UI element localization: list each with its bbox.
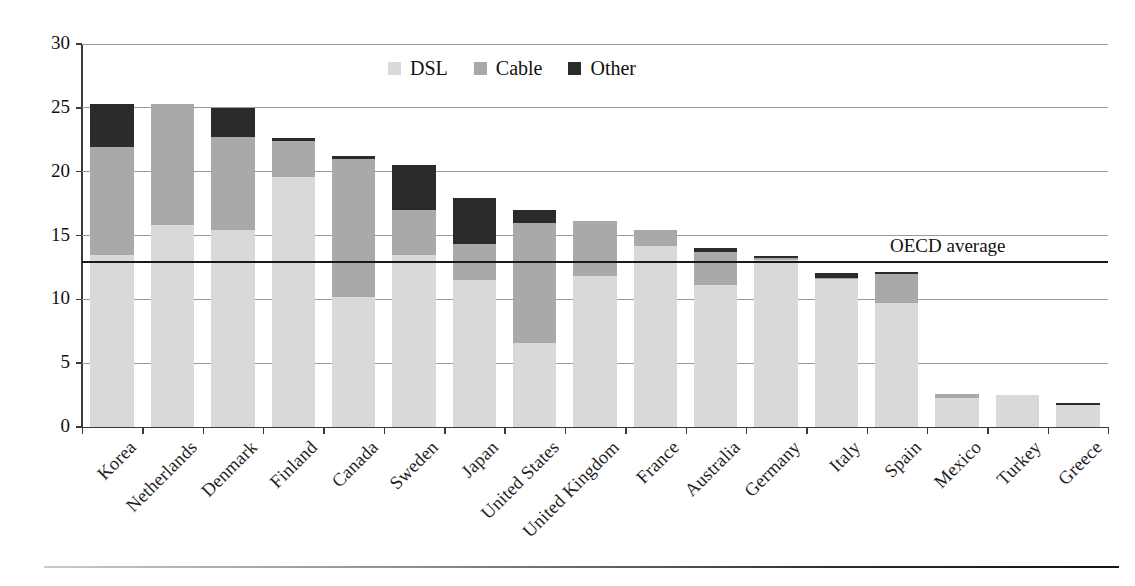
bar-segment-other	[211, 108, 254, 137]
legend-label-cable: Cable	[496, 57, 543, 80]
legend-swatch-other	[568, 62, 581, 75]
x-label-turkey: Turkey	[993, 437, 1046, 490]
x-label-australia: Australia	[680, 437, 744, 501]
y-tick-label-5: 5	[24, 352, 70, 371]
x-tick-mark-13	[867, 427, 868, 434]
bar-sweden	[392, 165, 435, 427]
x-tick-mark-17	[1108, 427, 1109, 434]
bar-australia	[694, 248, 737, 427]
bar-segment-dsl	[513, 343, 556, 427]
bar-segment-dsl	[634, 246, 677, 427]
x-tick-mark-12	[806, 427, 807, 434]
bar-segment-dsl	[754, 260, 797, 427]
bar-segment-dsl	[453, 280, 496, 427]
bar-segment-dsl	[935, 398, 978, 427]
y-tick-label-30: 30	[24, 33, 70, 52]
bar-segment-cable	[634, 230, 677, 245]
bar-finland	[272, 138, 315, 427]
bar-united-kingdom	[573, 221, 616, 427]
bar-segment-dsl	[815, 279, 858, 427]
y-tick-label-20: 20	[24, 161, 70, 180]
x-tick-mark-0	[82, 427, 83, 434]
x-tick-mark-1	[142, 427, 143, 434]
bar-turkey	[996, 395, 1039, 427]
legend-label-other: Other	[590, 57, 636, 80]
bar-segment-other	[754, 256, 797, 259]
legend-label-dsl: DSL	[410, 57, 448, 80]
bar-segment-other	[1056, 403, 1099, 406]
bar-segment-dsl	[90, 255, 133, 427]
bar-segment-cable	[392, 210, 435, 255]
bar-segment-other	[815, 273, 858, 278]
x-label-denmark: Denmark	[197, 437, 262, 502]
bar-japan	[453, 198, 496, 427]
bar-segment-cable	[754, 258, 797, 260]
bar-segment-cable	[815, 277, 858, 279]
bar-germany	[754, 256, 797, 427]
x-label-france: France	[633, 437, 684, 488]
bar-segment-other	[272, 138, 315, 141]
x-label-mexico: Mexico	[930, 437, 986, 493]
bar-segment-dsl	[573, 276, 616, 427]
legend-item-dsl: DSL	[388, 57, 448, 80]
bar-segment-other	[90, 104, 133, 147]
y-tick-label-0: 0	[24, 416, 70, 435]
y-tick-label-15: 15	[24, 225, 70, 244]
x-tick-mark-2	[203, 427, 204, 434]
bar-segment-cable	[935, 394, 978, 398]
x-label-canada: Canada	[327, 437, 382, 492]
x-label-italy: Italy	[826, 437, 866, 477]
bar-segment-cable	[90, 147, 133, 254]
x-tick-mark-4	[323, 427, 324, 434]
bar-france	[634, 230, 677, 427]
bar-segment-cable	[573, 221, 616, 276]
x-label-spain: Spain	[880, 437, 925, 482]
bar-segment-dsl	[875, 303, 918, 427]
oecd-average-label: OECD average	[890, 235, 1006, 257]
legend-swatch-dsl	[388, 62, 401, 75]
bar-segment-dsl	[694, 285, 737, 427]
x-tick-mark-5	[384, 427, 385, 434]
bar-segment-dsl	[272, 177, 315, 427]
x-tick-mark-15	[987, 427, 988, 434]
legend-item-other: Other	[568, 57, 636, 80]
bar-segment-dsl	[332, 297, 375, 427]
x-tick-mark-3	[263, 427, 264, 434]
y-tick-label-10: 10	[24, 288, 70, 307]
bar-italy	[815, 273, 858, 427]
bar-denmark	[211, 108, 254, 427]
x-tick-mark-7	[504, 427, 505, 434]
x-label-sweden: Sweden	[386, 437, 443, 494]
x-tick-mark-6	[444, 427, 445, 434]
bar-segment-other	[513, 210, 556, 223]
bar-segment-cable	[151, 104, 194, 225]
x-label-germany: Germany	[740, 437, 805, 502]
bar-segment-cable	[513, 223, 556, 343]
bar-segment-other	[694, 248, 737, 252]
bar-segment-dsl	[392, 255, 435, 427]
x-tick-mark-9	[625, 427, 626, 434]
bar-spain	[875, 273, 918, 427]
x-label-finland: Finland	[266, 437, 322, 493]
bar-segment-other	[453, 198, 496, 244]
bar-segment-cable	[272, 141, 315, 177]
oecd-average-line	[82, 261, 1108, 263]
x-label-japan: Japan	[458, 437, 503, 482]
x-tick-mark-11	[746, 427, 747, 434]
bar-segment-dsl	[211, 230, 254, 427]
legend-swatch-cable	[474, 62, 487, 75]
bar-segment-dsl	[1056, 405, 1099, 427]
bar-segment-other	[875, 272, 918, 274]
x-tick-mark-16	[1048, 427, 1049, 434]
bar-netherlands	[151, 104, 194, 427]
bar-segment-cable	[875, 274, 918, 303]
x-tick-mark-14	[927, 427, 928, 434]
x-label-greece: Greece	[1054, 437, 1107, 490]
bar-segment-other	[392, 165, 435, 210]
x-label-korea: Korea	[94, 437, 142, 485]
bar-greece	[1056, 403, 1099, 427]
page-bottom-rule	[44, 566, 1119, 568]
bar-segment-other	[332, 156, 375, 159]
legend-item-cable: Cable	[474, 57, 543, 80]
x-tick-mark-10	[686, 427, 687, 434]
